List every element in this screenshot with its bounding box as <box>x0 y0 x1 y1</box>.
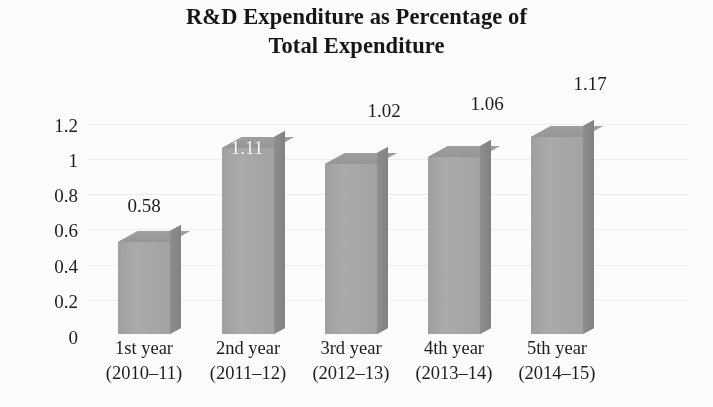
bar-4th-year-front-face <box>428 157 480 334</box>
gridline-0.8 <box>88 194 688 195</box>
data-label-3rd-year: 1.02 <box>350 101 418 120</box>
data-label-1st-year: 0.58 <box>110 196 178 215</box>
xaxis-label-5th-year: 5th year (2014–15) <box>495 336 619 386</box>
ytick-label-1: 1 <box>16 151 78 170</box>
xaxis-label-5th-year-line-2: (2014–15) <box>495 361 619 386</box>
bar-1st-year-front-face <box>118 242 170 334</box>
bar-5th-year-front-face <box>531 137 583 334</box>
bar-2nd-year[interactable] <box>222 137 274 334</box>
ytick-label-1.2: 1.2 <box>16 116 78 135</box>
xaxis-label-5th-year-line-1: 5th year <box>495 336 619 361</box>
ytick-label-0: 0 <box>16 328 78 347</box>
gridline-1.0 <box>88 159 688 160</box>
bar-5th-year[interactable] <box>531 126 583 334</box>
bar-5th-year-side-face <box>583 120 594 334</box>
bar-2nd-year-front-face <box>222 148 274 334</box>
data-label-5th-year: 1.17 <box>556 74 624 93</box>
bar-4th-year[interactable] <box>428 146 480 334</box>
ytick-label-0.6: 0.6 <box>16 221 78 240</box>
data-label-4th-year: 1.06 <box>453 94 521 113</box>
bar-3rd-year[interactable] <box>325 153 377 334</box>
ytick-label-0.2: 0.2 <box>16 292 78 311</box>
data-label-2nd-year: 1.11 <box>216 138 278 157</box>
bar-1st-year[interactable] <box>118 231 170 334</box>
bar-1st-year-side-face <box>170 225 181 334</box>
bar-3rd-year-side-face <box>377 147 388 334</box>
gridline-1.2 <box>88 124 688 125</box>
chart-page: R&D Expenditure as Percentage of Total E… <box>0 0 713 407</box>
plot-area: 1.2 1 0.8 0.6 0.4 0.2 0 0.58 1.11 1.02 <box>0 0 713 407</box>
bar-2nd-year-side-face <box>274 131 285 334</box>
ytick-label-0.8: 0.8 <box>16 186 78 205</box>
bar-4th-year-side-face <box>480 140 491 334</box>
ytick-label-0.4: 0.4 <box>16 257 78 276</box>
bar-3rd-year-front-face <box>325 164 377 334</box>
